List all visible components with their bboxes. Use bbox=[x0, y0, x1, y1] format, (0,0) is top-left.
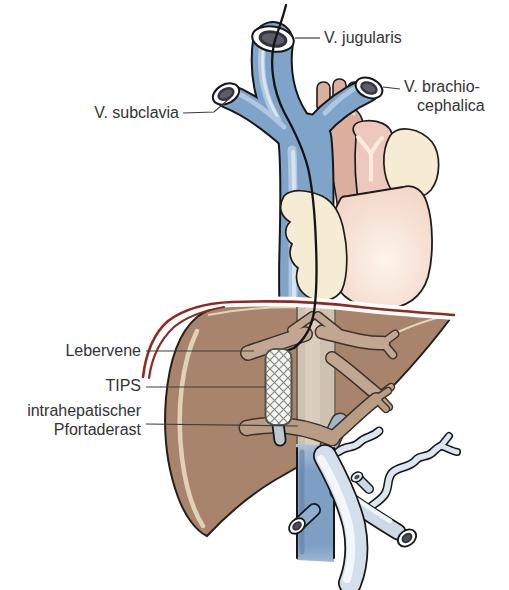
leader-brachiocephalica bbox=[383, 87, 400, 89]
label-v-brachiocephalica-line2: cephalica bbox=[417, 96, 485, 115]
label-v-subclavia: V. subclavia bbox=[94, 103, 179, 122]
label-v-brachiocephalica-line1: V. brachio- bbox=[404, 77, 485, 96]
label-tips: TIPS bbox=[105, 376, 141, 395]
label-pfortaderast-line2: Pfortaderast bbox=[27, 420, 141, 439]
tips-illustration: V. jugularis V. brachio- cephalica V. su… bbox=[0, 0, 509, 590]
label-pfortaderast-line1: intrahepatischer bbox=[27, 401, 141, 420]
label-lebervene: Lebervene bbox=[65, 341, 141, 360]
lower-vessels bbox=[286, 431, 457, 583]
label-v-brachiocephalica: V. brachio- cephalica bbox=[404, 77, 485, 115]
mesenteric-vein-long bbox=[362, 436, 457, 514]
label-intrahepatischer-pfortaderast: intrahepatischer Pfortaderast bbox=[27, 401, 141, 439]
label-v-jugularis: V. jugularis bbox=[324, 28, 402, 47]
